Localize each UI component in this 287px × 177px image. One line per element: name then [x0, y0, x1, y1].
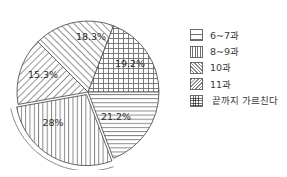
pie-chart-figure: 19.2%18.3%15.3%28%21.2% 6~7과 8~9과 10과 11…: [0, 0, 287, 177]
legend-label-10: 10과: [210, 62, 231, 73]
pie-chart-svg: 19.2%18.3%15.3%28%21.2%: [8, 8, 176, 170]
legend-label-8-9: 8~9과: [210, 46, 239, 57]
legend-swatch-horizontal-lines-icon: [190, 29, 203, 41]
pie-chart-area: 19.2%18.3%15.3%28%21.2%: [8, 8, 176, 170]
legend-item-8-9[interactable]: 8~9과: [190, 43, 285, 59]
legend-swatch-cross-hatch-icon: [190, 95, 203, 107]
pie-slice-label: 21.2%: [101, 111, 131, 122]
pie-slice-label: 28%: [42, 117, 63, 128]
legend-label-teach-to-end: 끝까지 가르친다: [212, 95, 278, 106]
legend-label-6-7: 6~7과: [210, 30, 239, 41]
legend-item-10[interactable]: 10과: [190, 60, 285, 76]
legend-item-11[interactable]: 11과: [190, 76, 285, 92]
legend-swatch-diagonal-forward-hatch-icon: [190, 62, 203, 74]
legend-label-11: 11과: [210, 79, 231, 90]
legend-item-6-7[interactable]: 6~7과: [190, 27, 285, 43]
pie-slice-label: 19.2%: [115, 58, 145, 69]
legend-item-teach-to-end[interactable]: 끝까지 가르친다: [190, 93, 285, 109]
pie-slice-label: 18.3%: [76, 31, 106, 42]
legend-swatch-vertical-lines-icon: [190, 46, 203, 58]
pie-slices: [17, 21, 159, 166]
legend-swatch-diagonal-back-hatch-icon: [190, 78, 203, 90]
pie-slice-label: 15.3%: [28, 69, 58, 80]
chart-legend: 6~7과 8~9과 10과 11과 끝까지 가르친다: [190, 27, 285, 109]
